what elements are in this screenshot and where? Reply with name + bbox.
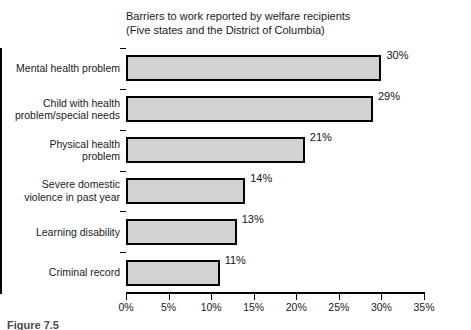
figure-caption: Figure 7.5 bbox=[7, 319, 59, 330]
chart-title: Barriers to work reported by welfare rec… bbox=[126, 9, 350, 37]
plot-area: 30%29%21%14%13%11% bbox=[126, 48, 424, 293]
x-axis-tick bbox=[296, 294, 297, 300]
bar-value-label: 29% bbox=[373, 90, 400, 102]
chart-title-line-1: Barriers to work reported by welfare rec… bbox=[126, 9, 350, 23]
y-axis-line bbox=[0, 48, 2, 294]
x-axis-tick-label: 0% bbox=[118, 301, 133, 313]
x-axis-tick-label: 15% bbox=[243, 301, 264, 313]
bar[interactable] bbox=[126, 137, 305, 163]
x-axis-tick-label: 20% bbox=[286, 301, 307, 313]
bar[interactable] bbox=[126, 55, 381, 81]
category-label-line: Criminal record bbox=[2, 266, 120, 279]
category-label-line: problem bbox=[2, 150, 120, 163]
bar[interactable] bbox=[126, 260, 220, 286]
x-axis-tick bbox=[126, 294, 127, 300]
category-label: Severe domesticviolence in past year bbox=[2, 178, 120, 203]
x-axis-tick-label: 25% bbox=[328, 301, 349, 313]
bar-value-label: 14% bbox=[245, 172, 272, 184]
y-axis-tick bbox=[120, 130, 126, 131]
bar[interactable] bbox=[126, 219, 237, 245]
category-label-line: Mental health problem bbox=[2, 62, 120, 75]
bar[interactable] bbox=[126, 96, 373, 122]
category-label: Mental health problem bbox=[2, 62, 120, 75]
x-axis-tick bbox=[424, 294, 425, 300]
x-axis-tick bbox=[211, 294, 212, 300]
category-axis-labels: Mental health problemChild with healthpr… bbox=[0, 48, 120, 293]
chart-title-line-2: (Five states and the District of Columbi… bbox=[126, 23, 350, 37]
x-axis-tick bbox=[254, 294, 255, 300]
category-label-line: Child with health bbox=[2, 97, 120, 110]
x-axis-tick bbox=[381, 294, 382, 300]
x-axis-tick-label: 35% bbox=[413, 301, 434, 313]
y-axis-tick bbox=[120, 171, 126, 172]
category-label-line: Severe domestic bbox=[2, 178, 120, 191]
y-axis-tick bbox=[120, 211, 126, 212]
bar[interactable] bbox=[126, 178, 245, 204]
category-label: Criminal record bbox=[2, 266, 120, 279]
y-axis-tick bbox=[120, 89, 126, 90]
category-label-line: Physical health bbox=[2, 138, 120, 151]
x-axis-tick-label: 5% bbox=[161, 301, 176, 313]
y-axis-tick bbox=[120, 48, 126, 49]
category-label-line: Learning disability bbox=[2, 226, 120, 239]
bar-value-label: 30% bbox=[381, 49, 408, 61]
category-label: Child with healthproblem/special needs bbox=[2, 97, 120, 122]
category-label-line: violence in past year bbox=[2, 191, 120, 204]
bar-value-label: 21% bbox=[305, 131, 332, 143]
bar-value-label: 11% bbox=[220, 254, 246, 266]
category-label: Physical healthproblem bbox=[2, 138, 120, 163]
x-axis-tick bbox=[339, 294, 340, 300]
x-axis-tick-label: 30% bbox=[371, 301, 392, 313]
x-axis-tick bbox=[169, 294, 170, 300]
category-label-line: problem/special needs bbox=[2, 109, 120, 122]
y-axis-tick bbox=[120, 252, 126, 253]
bar-value-label: 13% bbox=[237, 213, 264, 225]
x-axis-tick-label: 10% bbox=[201, 301, 222, 313]
category-label: Learning disability bbox=[2, 226, 120, 239]
